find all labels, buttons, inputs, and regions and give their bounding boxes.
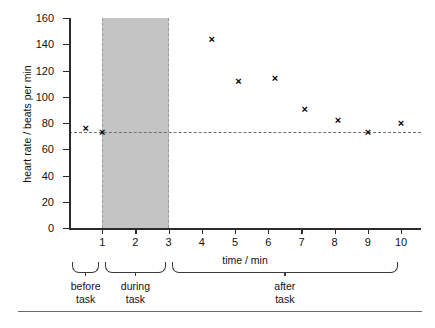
x-tick-label-10: 10: [395, 236, 407, 248]
phase-label-line1: during: [102, 280, 168, 293]
phase-brace-before: [72, 262, 99, 273]
y-tick-label-0: 0: [48, 222, 54, 234]
phase-brace-after: [172, 262, 398, 273]
x-tick-label-9: 9: [365, 236, 371, 248]
footer-divider: [18, 311, 422, 312]
x-tick-8: [335, 228, 336, 234]
phase-label-line1: after: [169, 280, 401, 293]
x-tick-label-7: 7: [298, 236, 304, 248]
y-tick-60: 60: [63, 149, 69, 150]
heart-rate-chart-figure: heart rate / beats per min 0204060801001…: [0, 0, 435, 328]
y-tick-20: 20: [63, 202, 69, 203]
phase-label-before: beforetask: [69, 280, 102, 306]
x-tick-10: [401, 228, 402, 234]
plot-area: 020406080100120140160 12345678910 ××××××…: [69, 18, 421, 228]
y-tick-100: 100: [63, 97, 69, 98]
during-task-shaded-band: [102, 18, 168, 228]
y-tick-label-80: 80: [42, 117, 54, 129]
x-tick-label-8: 8: [332, 236, 338, 248]
phase-label-line1: before: [69, 280, 102, 293]
y-tick-0: 0: [63, 228, 69, 229]
y-tick-80: 80: [63, 123, 69, 124]
x-tick-1: [102, 228, 103, 234]
phase-label-line2: task: [102, 293, 168, 306]
x-tick-label-6: 6: [265, 236, 271, 248]
x-tick-4: [202, 228, 203, 234]
data-point: ×: [333, 116, 342, 125]
y-tick-label-60: 60: [42, 143, 54, 155]
data-point: ×: [270, 74, 279, 83]
x-tick-label-4: 4: [199, 236, 205, 248]
phase-label-line2: task: [169, 293, 401, 306]
data-point: ×: [81, 124, 90, 133]
phase-label-during: duringtask: [102, 280, 168, 306]
x-tick-label-1: 1: [99, 236, 105, 248]
phase-brace-during: [105, 262, 165, 273]
data-point: ×: [207, 35, 216, 44]
phase-label-line2: task: [69, 293, 102, 306]
y-tick-40: 40: [63, 176, 69, 177]
x-tick-label-3: 3: [166, 236, 172, 248]
y-tick-label-40: 40: [42, 170, 54, 182]
data-point: ×: [300, 105, 309, 114]
phase-brackets: beforetaskduringtaskaftertask: [69, 262, 421, 324]
x-tick-label-5: 5: [232, 236, 238, 248]
x-tick-label-2: 2: [132, 236, 138, 248]
x-tick-6: [268, 228, 269, 234]
y-tick-label-140: 140: [36, 38, 54, 50]
x-tick-2: [135, 228, 136, 234]
y-tick-120: 120: [63, 71, 69, 72]
x-tick-9: [368, 228, 369, 234]
y-tick-label-160: 160: [36, 12, 54, 24]
y-tick-label-20: 20: [42, 196, 54, 208]
data-point: ×: [397, 119, 406, 128]
y-tick-label-100: 100: [36, 91, 54, 103]
y-axis-title: heart rate / beats per min: [21, 39, 33, 209]
x-tick-7: [301, 228, 302, 234]
x-tick-3: [169, 228, 170, 234]
data-point: ×: [98, 128, 107, 137]
y-tick-label-120: 120: [36, 65, 54, 77]
phase-label-after: aftertask: [169, 280, 401, 306]
y-tick-160: 160: [63, 18, 69, 19]
y-tick-140: 140: [63, 44, 69, 45]
x-tick-5: [235, 228, 236, 234]
data-point: ×: [363, 128, 372, 137]
data-point: ×: [234, 77, 243, 86]
y-axis-line: [69, 18, 71, 228]
